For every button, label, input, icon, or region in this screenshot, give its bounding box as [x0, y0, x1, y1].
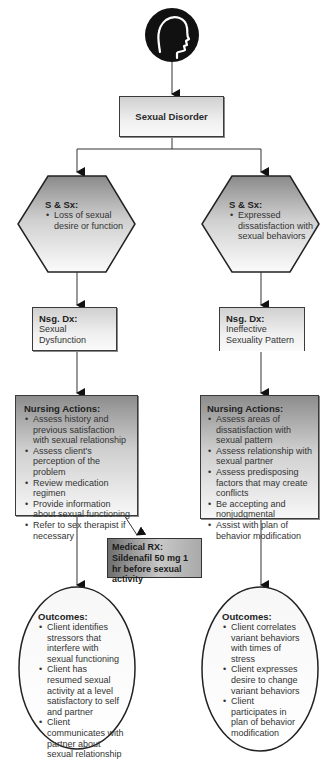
- nursing-actions-title-left: Nursing Actions:: [24, 403, 131, 414]
- nursing-action-item: Assess relationship with sexual partner: [207, 446, 314, 467]
- signs-item-right: Expressed dissatisfaction with sexual be…: [229, 210, 317, 242]
- nursing-actions-title-right: Nursing Actions:: [207, 403, 314, 414]
- outcomes-right: Outcomes: Client correlates variant beha…: [222, 611, 302, 739]
- outcome-item: Client communicates with partner about s…: [38, 717, 124, 759]
- nursing-action-item: Be accepting and nonjudgmental: [207, 499, 314, 520]
- nursing-action-item: Review medication regimen: [24, 478, 131, 499]
- signs-symptoms-right: S & Sx: Expressed dissatisfaction with s…: [229, 199, 317, 242]
- nursing-action-item: Assist with plan of behavior modificatio…: [207, 520, 314, 541]
- nursing-action-item: Provide information about sexual functio…: [24, 499, 131, 520]
- nursing-action-item: Assess areas of dissatisfaction with sex…: [207, 414, 314, 446]
- nursing-action-item: Assess history and previous satisfaction…: [24, 414, 131, 446]
- outcome-item: Client expresses desire to change varian…: [222, 664, 302, 696]
- outcome-item: Client correlates variant behaviors with…: [222, 622, 302, 664]
- outcomes-left: Outcomes: Client identifies stressors th…: [38, 611, 124, 760]
- nursing-action-item: Assess client's perception of the proble…: [24, 446, 131, 478]
- medical-rx-title: Medical RX:: [112, 542, 197, 553]
- root-box-sexual-disorder: Sexual Disorder: [119, 96, 224, 137]
- signs-title-left: S & Sx:: [45, 199, 125, 210]
- nursing-actions-right: Nursing Actions: Assess areas of dissati…: [200, 395, 319, 519]
- outcomes-title-left: Outcomes:: [38, 611, 124, 622]
- diagnosis-text-right: Ineffective Sexuality Pattern: [226, 324, 298, 345]
- outcomes-title-right: Outcomes:: [222, 611, 302, 622]
- signs-symptoms-left: S & Sx: Loss of sexual desire or functio…: [45, 199, 125, 231]
- signs-title-right: S & Sx:: [229, 199, 317, 210]
- medical-rx-text: Sildenafil 50 mg 1 hr before sexual acti…: [112, 553, 197, 585]
- head-profile-icon: [145, 8, 199, 62]
- outcome-item: Client has resumed sexual activity at a …: [38, 664, 124, 717]
- outcome-item: Client identifies stressors that interfe…: [38, 622, 124, 664]
- nursing-diagnosis-right: Nsg. Dx: Ineffective Sexuality Pattern: [219, 307, 305, 351]
- diagnosis-text-left: Sexual Dysfunction: [39, 324, 110, 345]
- outcome-item: Client participates in plan of behavior …: [222, 696, 302, 738]
- medical-rx-box: Medical RX: Sildenafil 50 mg 1 hr before…: [107, 538, 202, 578]
- nursing-diagnosis-left: Nsg. Dx: Sexual Dysfunction: [32, 307, 117, 351]
- signs-item-left: Loss of sexual desire or function: [45, 210, 125, 231]
- nursing-actions-left: Nursing Actions: Assess history and prev…: [15, 395, 138, 516]
- root-label: Sexual Disorder: [135, 111, 207, 122]
- nursing-action-item: Assess predisposing factors that may cre…: [207, 467, 314, 499]
- diagnosis-title-right: Nsg. Dx:: [226, 313, 298, 324]
- diagnosis-title-left: Nsg. Dx:: [39, 313, 110, 324]
